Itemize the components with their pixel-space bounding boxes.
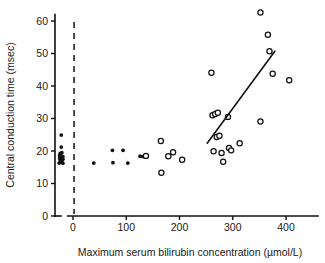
data-point [121, 148, 125, 152]
data-point [143, 153, 148, 158]
chart-canvas: 01020304050600100200300400 Maximum serum… [0, 0, 325, 263]
x-tick-label: 100 [117, 221, 135, 233]
data-point [211, 149, 216, 154]
data-point [217, 133, 222, 138]
data-point [171, 150, 176, 155]
data-point [265, 32, 270, 37]
data-point [219, 150, 224, 155]
y-tick-label: 60 [36, 15, 48, 27]
data-point [158, 138, 163, 143]
data-points-layer [57, 10, 292, 175]
y-tick-label: 30 [36, 112, 48, 124]
x-axis [55, 216, 318, 220]
data-point [215, 110, 220, 115]
data-point [57, 161, 61, 165]
regression-line [207, 51, 275, 143]
data-point [92, 161, 96, 165]
data-point [229, 148, 234, 153]
data-point [270, 71, 275, 76]
y-tick-label: 40 [36, 80, 48, 92]
axis-tick-labels: 01020304050600100200300400 [36, 15, 295, 233]
data-point [258, 119, 263, 124]
data-point [237, 141, 242, 146]
x-tick-label: 0 [70, 221, 76, 233]
data-point [258, 10, 263, 15]
data-point [59, 145, 63, 149]
y-axis [51, 15, 55, 217]
data-point [221, 159, 226, 164]
data-point [159, 170, 164, 175]
x-tick-label: 200 [171, 221, 189, 233]
data-point [267, 49, 272, 54]
y-tick-label: 50 [36, 47, 48, 59]
y-axis-title: Central conduction time (msec) [4, 42, 16, 187]
regression-line [207, 51, 275, 143]
scatter-plot-figure: 01020304050600100200300400 Maximum serum… [0, 0, 325, 263]
y-tick-label: 10 [36, 177, 48, 189]
x-axis-title: Maximum serum bilirubin concentration (µ… [78, 246, 302, 258]
data-point [166, 154, 171, 159]
data-point [111, 148, 115, 152]
data-point [209, 70, 214, 75]
data-point [61, 161, 65, 165]
data-point [180, 157, 185, 162]
x-tick-label: 300 [224, 221, 242, 233]
data-point [111, 161, 115, 165]
data-point [287, 78, 292, 83]
x-tick-label: 400 [277, 221, 295, 233]
y-tick-label: 0 [42, 210, 48, 222]
data-point [59, 133, 63, 137]
data-point [126, 161, 130, 165]
y-tick-label: 20 [36, 145, 48, 157]
